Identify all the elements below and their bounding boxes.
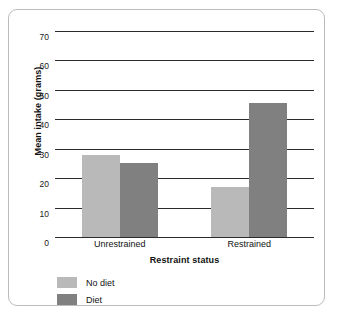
y-tick-label: 30 [40, 150, 54, 161]
x-category-label-restrained: Restrained [189, 239, 309, 249]
x-axis-title: Restraint status [55, 255, 314, 265]
chart-legend: No dietDiet [57, 274, 115, 308]
y-tick-label: 10 [40, 209, 54, 220]
chart-figure-frame: Mean intake (grams) 010203040506070 Unre… [8, 9, 325, 306]
bar-no-diet-restrained [211, 187, 249, 237]
bars-layer [55, 31, 314, 237]
bar-diet-restrained [249, 103, 287, 237]
legend-swatch [57, 294, 77, 305]
x-category-label-unrestrained: Unrestrained [60, 239, 180, 249]
plot-area: 010203040506070 [55, 31, 314, 237]
y-tick-label: 60 [40, 61, 54, 72]
y-tick-label: 50 [40, 91, 54, 102]
bar-diet-unrestrained [120, 163, 158, 237]
y-tick-label: 0 [44, 238, 54, 249]
bar-no-diet-unrestrained [82, 155, 120, 237]
legend-swatch [57, 277, 77, 288]
legend-label: No diet [86, 278, 115, 288]
legend-item-diet: Diet [57, 291, 115, 308]
y-tick-label: 70 [40, 32, 54, 43]
y-tick-label: 40 [40, 120, 54, 131]
legend-item-no-diet: No diet [57, 274, 115, 291]
y-tick-label: 20 [40, 179, 54, 190]
grid-line [55, 237, 314, 238]
legend-label: Diet [86, 295, 102, 305]
